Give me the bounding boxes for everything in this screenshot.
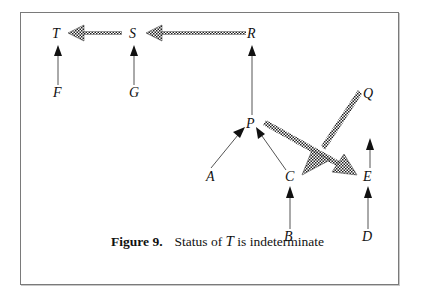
node-s: S bbox=[129, 26, 136, 41]
node-q: Q bbox=[363, 86, 373, 101]
node-g: G bbox=[129, 85, 139, 100]
caption-suffix: is indeterminate bbox=[234, 234, 324, 249]
figure-number: Figure 9. bbox=[111, 234, 163, 249]
node-p: P bbox=[245, 116, 255, 131]
caption-variable: T bbox=[226, 233, 234, 249]
node-f: F bbox=[52, 85, 62, 100]
edge-a-to-p bbox=[211, 127, 245, 168]
edge-r-to-s bbox=[146, 25, 246, 41]
edge-f-to-t bbox=[54, 45, 62, 85]
edge-p-to-r bbox=[248, 45, 256, 115]
edge-d-to-e bbox=[364, 186, 372, 229]
edge-b-to-c bbox=[286, 186, 294, 229]
node-e: E bbox=[362, 169, 372, 184]
edge-s-to-t bbox=[68, 25, 122, 41]
node-r: R bbox=[246, 26, 256, 41]
caption-prefix: Status of bbox=[175, 234, 226, 249]
figure-caption: Figure 9.Status of T is indeterminate bbox=[0, 233, 435, 250]
edge-g-to-s bbox=[130, 45, 138, 85]
node-a: A bbox=[205, 169, 215, 184]
node-c: C bbox=[285, 169, 295, 184]
node-t: T bbox=[52, 26, 61, 41]
edge-e-to-q bbox=[366, 138, 374, 168]
